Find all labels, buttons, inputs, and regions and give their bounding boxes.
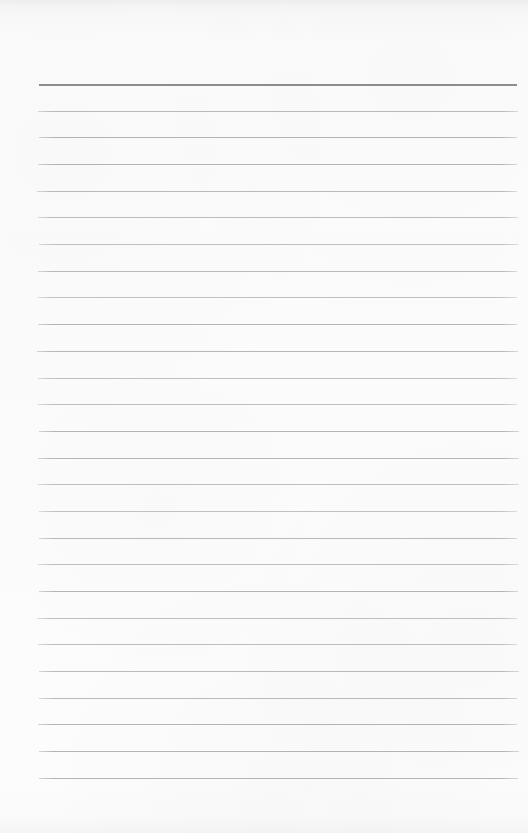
ruled-line — [39, 431, 519, 432]
ruled-line — [38, 564, 518, 565]
bottom-edge-shading — [0, 815, 528, 833]
ruled-line — [38, 458, 519, 459]
ruled-line — [39, 671, 518, 672]
ruled-line — [38, 217, 518, 218]
top-edge-shading — [0, 0, 528, 14]
ruled-line — [38, 644, 516, 645]
ruled-line — [39, 698, 517, 699]
ruled-line — [37, 191, 517, 192]
ruled-line — [38, 271, 517, 272]
ruled-line — [39, 137, 517, 138]
ruled-line — [39, 511, 517, 512]
ruled-line — [38, 484, 518, 485]
ruled-line — [38, 164, 518, 165]
ruled-line — [37, 618, 517, 619]
ruled-line — [38, 324, 517, 325]
ruled-line — [39, 244, 519, 245]
ruled-line — [39, 778, 518, 779]
ruled-line — [39, 538, 517, 539]
ruled-line — [38, 111, 518, 112]
ruled-line — [38, 404, 517, 405]
lined-paper-page — [0, 0, 528, 833]
header-rule-line — [39, 84, 517, 86]
ruled-line — [37, 351, 517, 352]
ruled-line — [38, 297, 517, 298]
ruled-line — [39, 751, 519, 752]
ruled-line — [39, 591, 518, 592]
ruled-line — [38, 378, 518, 379]
ruled-line — [38, 724, 517, 725]
